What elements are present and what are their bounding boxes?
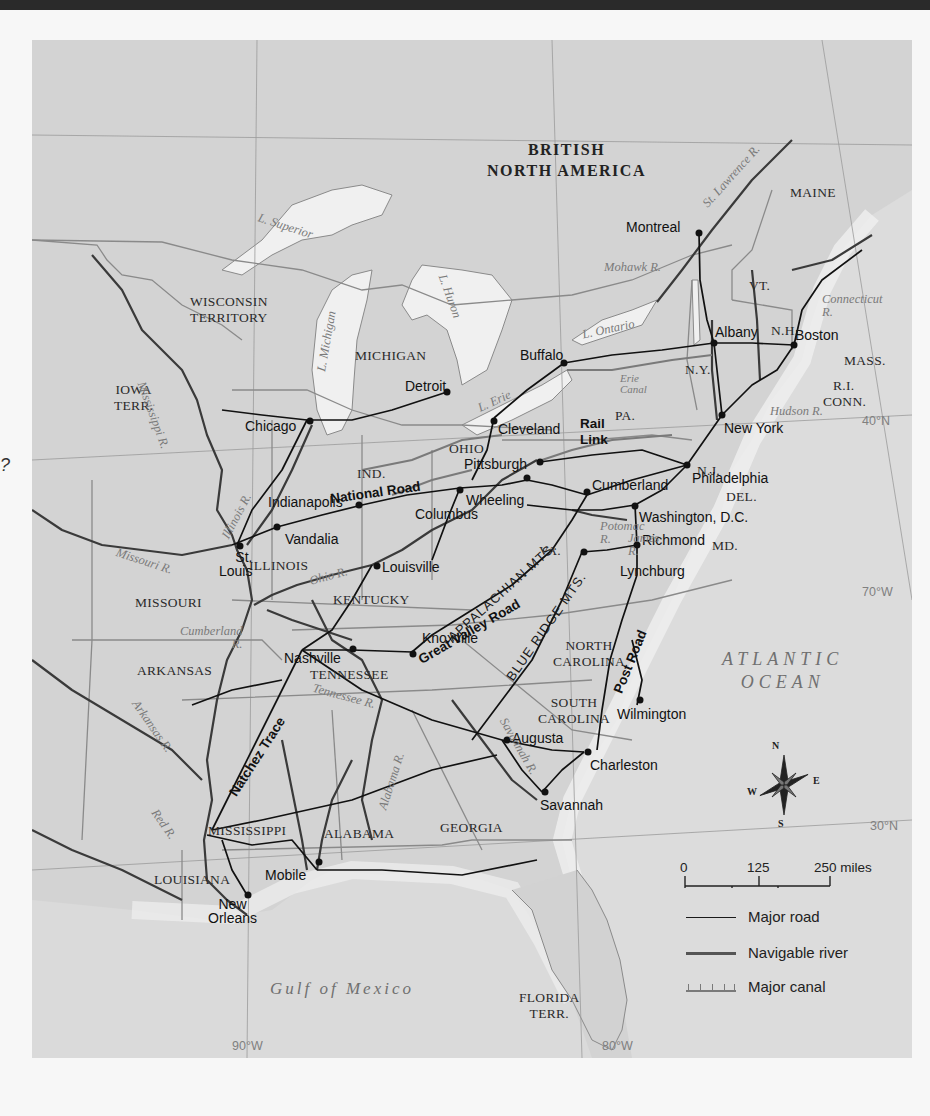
legend-item-navigable-river: Navigable river	[686, 944, 848, 961]
state-label-missouri: MISSOURI	[135, 595, 202, 611]
margin-mark: ?	[0, 455, 10, 476]
state-label-wisconsin: WISCONSIN TERRITORY	[190, 294, 268, 325]
water-label-erie-canal: Erie Canal	[620, 373, 647, 395]
state-label-louisiana: LOUISIANA	[154, 872, 230, 888]
scale-miles-125: 125	[747, 860, 770, 875]
state-label-kentucky: KENTUCKY	[333, 592, 410, 608]
water-label-connecticut: Connecticut R.	[822, 293, 882, 318]
city-label-lynchburg: Lynchburg	[620, 564, 685, 578]
legend-item-major-canal: Major canal	[686, 978, 826, 995]
city-label-new-orleans: New Orleans	[208, 897, 257, 925]
state-label-south-carolina: SOUTH CAROLINA	[538, 695, 610, 726]
state-label-georgia: GEORGIA	[440, 820, 503, 836]
city-label-pittsburgh: Pittsburgh	[464, 457, 527, 471]
map-legend: Major road Navigable river Major canal	[672, 888, 904, 1000]
city-label-columbus: Columbus	[415, 507, 478, 521]
city-label-philadelphia: Philadelphia	[692, 471, 768, 485]
city-label-albany: Albany	[715, 325, 758, 339]
state-label-ri: R.I.	[833, 378, 854, 394]
state-label-illinois: ILLINOIS	[249, 558, 308, 574]
major-road-swatch-icon	[686, 911, 736, 923]
city-label-detroit: Detroit	[405, 379, 446, 393]
water-label-hudson: Hudson R.	[770, 405, 823, 418]
coord-label-80w: 80°W	[602, 1040, 633, 1053]
state-label-ohio: OHIO	[449, 441, 484, 457]
coord-label-30n: 30°N	[870, 820, 898, 833]
city-label-new-york: New York	[724, 421, 783, 435]
city-label-mobile: Mobile	[265, 868, 306, 882]
map-panel: BRITISH NORTH AMERICA ATLANTIC OCEAN Gul…	[32, 40, 912, 1058]
city-label-cumberland: Cumberland	[592, 478, 668, 492]
city-label-wheeling: Wheeling	[466, 493, 524, 507]
state-label-mississippi: MISSISSIPPI	[208, 823, 286, 839]
scale-miles-250: 250 miles	[814, 860, 872, 875]
state-label-north-carolina: NORTH CAROLINA	[553, 638, 625, 669]
major-canal-swatch-icon	[686, 981, 736, 993]
coord-label-70w: 70°W	[862, 586, 893, 599]
city-label-cleveland: Cleveland	[498, 422, 560, 436]
city-label-washington-dc: Washington, D.C.	[639, 510, 748, 524]
water-label-cumberland-r: Cumberland R.	[180, 625, 243, 650]
compass-n: N	[772, 740, 779, 751]
compass-w: W	[747, 786, 757, 797]
city-label-boston: Boston	[795, 328, 839, 342]
navigable-river-swatch-icon	[686, 947, 736, 959]
state-label-florida: FLORIDA TERR.	[519, 990, 580, 1021]
state-label-md: MD.	[712, 538, 738, 554]
state-label-ny: N.Y.	[685, 362, 711, 378]
state-label-michigan: MICHIGAN	[355, 348, 426, 364]
coord-label-40n: 40°N	[862, 415, 890, 428]
region-label-gulf-of-mexico: Gulf of Mexico	[270, 980, 414, 997]
city-label-buffalo: Buffalo	[520, 348, 563, 362]
city-label-charleston: Charleston	[590, 758, 658, 772]
city-label-montreal: Montreal	[626, 220, 680, 234]
legend-item-major-road: Major road	[686, 908, 820, 925]
region-label-atlantic-ocean: ATLANTIC OCEAN	[722, 648, 843, 693]
water-label-james-r: James R.	[628, 532, 659, 557]
route-label-rail-link: Rail Link	[580, 416, 608, 447]
state-label-pa: PA.	[615, 408, 635, 424]
city-label-vandalia: Vandalia	[285, 532, 338, 546]
state-label-del: DEL.	[726, 489, 757, 505]
state-label-mass: MASS.	[844, 353, 886, 369]
city-label-nashville: Nashville	[284, 651, 341, 665]
city-label-savannah: Savannah	[540, 798, 603, 812]
state-label-maine: MAINE	[790, 185, 836, 201]
state-label-alabama: ALABAMA	[324, 826, 394, 842]
state-label-tennessee: TENNESSEE	[310, 667, 388, 683]
state-label-conn: CONN.	[823, 394, 866, 410]
top-dark-strip	[0, 0, 930, 10]
compass-e: E	[813, 775, 820, 786]
state-label-ind: IND.	[357, 466, 386, 482]
water-label-mohawk: Mohawk R.	[604, 261, 661, 274]
city-label-chicago: Chicago	[245, 419, 296, 433]
city-label-st-louis: St. Louis	[219, 550, 252, 578]
state-label-vt: VT.	[749, 278, 770, 294]
city-label-wilmington: Wilmington	[617, 707, 686, 721]
compass-s: S	[778, 818, 784, 829]
state-label-arkansas: ARKANSAS	[137, 663, 212, 679]
region-label-british-north-america: BRITISH NORTH AMERICA	[487, 140, 646, 182]
scale-miles-0: 0	[680, 860, 688, 875]
coord-label-90w: 90°W	[232, 1040, 263, 1053]
city-label-louisville: Louisville	[382, 560, 440, 574]
